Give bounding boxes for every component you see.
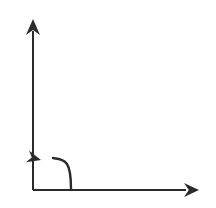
diagram-canvas: Counterclockwise rotation about the orig… <box>0 0 216 208</box>
coordinate-axes-diagram <box>0 0 216 208</box>
rotation-arc-line <box>53 158 71 189</box>
horizontal-axis-arrow-icon <box>184 183 199 197</box>
